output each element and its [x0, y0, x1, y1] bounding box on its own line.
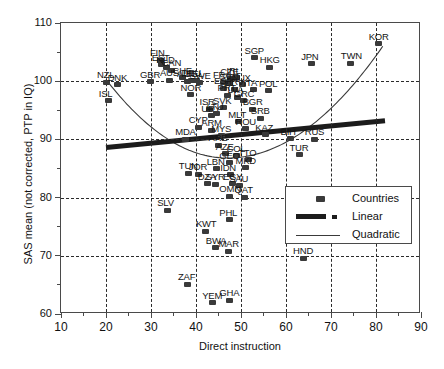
data-point-marker [265, 88, 272, 93]
data-point-label: QAT [235, 185, 253, 195]
data-point-marker [202, 229, 209, 234]
y-axis-tick-label: 70 [40, 248, 52, 263]
data-point-marker [182, 137, 189, 142]
data-point-marker [147, 79, 154, 84]
data-point-marker [266, 65, 273, 70]
data-point-label: RUS [305, 127, 324, 137]
data-point-label: NOR [181, 83, 202, 93]
data-point-label: SWE [190, 71, 211, 81]
y-axis-tick-label: 110 [34, 15, 52, 30]
data-point-label: GBR [140, 70, 160, 80]
data-point-marker [184, 282, 191, 287]
x-axis-tick-label: 50 [234, 320, 247, 334]
legend-label-quadratic: Quadratic [352, 228, 400, 240]
data-point-label: MKD [236, 156, 257, 166]
data-point-label: BIH [281, 127, 296, 137]
x-axis-tick-label: 70 [324, 320, 337, 334]
data-point-label: TWN [341, 51, 362, 61]
legend: Countries Linear Quadratic [285, 186, 412, 244]
data-point-marker [164, 208, 171, 213]
data-point-marker [347, 61, 354, 66]
x-axis-tick-label: 60 [279, 320, 292, 334]
data-point-marker [287, 136, 294, 141]
x-axis-tick-label: 20 [99, 320, 112, 334]
gridline-vertical [331, 23, 332, 312]
legend-label-linear: Linear [352, 210, 383, 222]
data-point-marker [212, 182, 219, 187]
data-point-marker [226, 217, 233, 222]
data-point-label: KOR [369, 32, 389, 42]
data-point-marker [300, 256, 307, 261]
legend-label-countries: Countries [352, 192, 399, 204]
legend-row-linear: Linear [286, 208, 411, 226]
data-point-label: SRB [251, 106, 270, 116]
data-point-marker [242, 165, 249, 170]
data-point-marker [311, 137, 318, 142]
gridline-vertical [151, 23, 152, 312]
data-point-label: GHA [219, 288, 239, 298]
data-point-marker [105, 98, 112, 103]
y-axis-tick-label: 60 [40, 306, 52, 321]
data-point-label: MDA [175, 127, 196, 137]
data-point-marker [375, 41, 382, 46]
data-point-marker [225, 249, 232, 254]
x-axis-tick-label: 30 [144, 320, 157, 334]
data-point-label: ITA [244, 78, 257, 88]
plot-area: 60708090100110102030405060708090NZLISLDN… [60, 22, 420, 313]
data-point-marker [308, 61, 315, 66]
data-point-marker [209, 300, 216, 305]
gridline-vertical [106, 23, 107, 312]
data-point-marker [187, 92, 194, 97]
data-point-label: HND [293, 246, 313, 256]
data-point-label: SLV [157, 198, 174, 208]
linear-line-icon [294, 208, 346, 226]
data-point-label: POL [259, 79, 277, 89]
x-axis-tick-label: 40 [189, 320, 202, 334]
y-axis-tick-label: 80 [40, 190, 52, 205]
data-point-label: ISL [99, 89, 113, 99]
data-point-label: TUR [290, 143, 309, 153]
data-point-marker [251, 55, 258, 60]
data-point-marker [242, 126, 249, 131]
data-point-marker [213, 111, 220, 116]
data-point-marker [114, 82, 121, 87]
data-point-marker [257, 116, 264, 121]
countries-marker-icon [294, 190, 346, 208]
gridline-horizontal [61, 139, 419, 140]
quadratic-line-icon [294, 226, 346, 244]
legend-row-quadratic: Quadratic [286, 226, 411, 244]
data-point-label: LTU [207, 102, 224, 112]
data-point-label: JPN [301, 52, 318, 62]
scatter-chart: SAS mean (not corrected, PTP in IQ) Dire… [0, 0, 444, 369]
data-point-marker [226, 298, 233, 303]
data-point-marker [296, 152, 303, 157]
data-point-label: DNK [108, 73, 127, 83]
data-point-marker [262, 132, 269, 137]
data-point-label: ZAF [178, 272, 195, 282]
data-point-label: SYR [206, 172, 225, 182]
legend-row-countries: Countries [286, 190, 411, 208]
data-point-marker [226, 194, 233, 199]
data-point-marker [166, 78, 173, 83]
data-point-label: HKG [260, 55, 280, 65]
x-axis-title: Direct instruction [60, 340, 420, 352]
y-axis-tick-label: 90 [40, 131, 52, 146]
x-axis-tick-label: 90 [414, 320, 427, 334]
x-axis-tick-label: 10 [54, 320, 67, 334]
data-point-label: ROU [236, 117, 257, 127]
gridline-horizontal [61, 256, 419, 257]
data-point-label: PHL [219, 208, 237, 218]
data-point-label: MAR [218, 239, 239, 249]
data-point-label: KWT [196, 219, 217, 229]
data-point-marker [241, 195, 248, 200]
y-axis-title: SAS mean (not corrected, PTP in IQ) [22, 64, 34, 284]
gridline-vertical [286, 23, 287, 312]
x-axis-tick-label: 80 [369, 320, 382, 334]
y-axis-tick-label: 100 [34, 73, 52, 88]
gridline-vertical [376, 23, 377, 312]
data-point-label: KAZ [255, 123, 273, 133]
